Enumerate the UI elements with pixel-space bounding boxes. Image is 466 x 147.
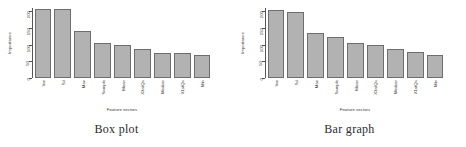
x-axis-tick-labels-left: VarSdMaxSampleMeanX3rdQuMedianX1stQuMin [33,79,212,105]
bar [114,45,131,79]
bar [194,55,211,78]
x-label-slot: Median [385,79,405,105]
x-axis-tick-label: Sample [100,80,105,95]
x-axis-tick-label: Sample [333,80,338,95]
bar-slot [33,8,53,78]
bar [407,52,424,78]
bar [154,53,171,78]
x-axis-tick-label: X3rdQu [373,80,378,95]
panel-caption-right: Bar graph [233,122,466,137]
bar [268,10,285,78]
panel-bar-graph: Importance 050100150200 VarSdMaxSampleMe… [233,0,466,147]
y-axis-tick-label: 100 [259,45,264,52]
bars-container-right [266,8,445,78]
bar-slot [266,8,286,78]
bar-slot [113,8,133,78]
x-axis-tick-label: Max [313,80,318,88]
bar [347,43,364,78]
y-axis-tick-label: 100 [26,45,31,52]
y-axis-title-left: Importance [7,32,12,54]
x-label-slot: Median [152,79,172,105]
y-axis-tick-label: 150 [26,28,31,35]
bar [174,53,191,78]
x-axis-tick-label: X1stQu [180,80,185,94]
x-axis-tick-label: X1stQu [413,80,418,94]
x-axis-tick-labels-right: VarSdMaxSampleMeanX3rdQuMedianX1stQuMin [266,79,445,105]
x-axis-title-right: Feature vectors [340,107,371,112]
x-axis-tick-label: Sd [60,80,65,85]
bar [307,33,324,78]
x-label-slot: Sample [93,79,113,105]
y-axis-tick-label: 0 [26,78,31,80]
x-axis-tick-label: Min [433,80,438,87]
bars-container-left [33,8,212,78]
x-label-slot: Max [73,79,93,105]
panel-caption-left: Box plot [0,122,233,137]
bar-slot [152,8,172,78]
x-label-slot: Mean [113,79,133,105]
x-label-slot: Sd [286,79,306,105]
x-axis-tick-label: Sd [293,80,298,85]
bar-slot [286,8,306,78]
bar [327,37,344,78]
y-axis-tick-label: 200 [259,11,264,18]
x-label-slot: Min [425,79,445,105]
x-label-slot: Sd [53,79,73,105]
x-axis-tick-label: Var [40,80,45,86]
bar-slot [73,8,93,78]
bar-slot [425,8,445,78]
x-axis-tick-label: Max [80,80,85,88]
bar-slot [132,8,152,78]
bar [427,55,444,78]
figure-two-bar-charts: Importance 050100150200 VarSdMaxSampleMe… [0,0,466,147]
x-axis-tick-label: Mean [353,80,358,91]
y-axis-tick-label: 200 [26,11,31,18]
bar-slot [326,8,346,78]
x-label-slot: X3rdQu [365,79,385,105]
x-axis-tick-label: Min [200,80,205,87]
bar-slot [405,8,425,78]
bar [287,12,304,78]
x-label-slot: X3rdQu [132,79,152,105]
x-label-slot: X1stQu [172,79,192,105]
x-axis-tick-label: Var [273,80,278,86]
y-axis-title-right: Importance [240,32,245,54]
y-axis-tick-label: 150 [259,28,264,35]
bar [74,31,91,78]
x-label-slot: Sample [326,79,346,105]
bar [35,9,52,78]
x-axis-tick-label: X3rdQu [140,80,145,95]
x-axis-title-left: Feature vectors [107,107,138,112]
bar-slot [192,8,212,78]
panel-box-plot: Importance 050100150200 VarSdMaxSampleMe… [0,0,233,147]
x-axis-tick-label: Median [160,80,165,94]
bar-slot [346,8,366,78]
x-axis-tick-label: Mean [120,80,125,91]
x-label-slot: Var [33,79,53,105]
x-label-slot: Max [306,79,326,105]
x-axis-tick-label: Median [393,80,398,94]
y-axis-tick-label: 0 [259,78,264,80]
y-axis-tick-label: 50 [26,61,31,66]
bar-slot [365,8,385,78]
bar [94,43,111,78]
x-label-slot: X1stQu [405,79,425,105]
bar [367,45,384,78]
bar [54,9,71,78]
bar-slot [172,8,192,78]
bar-slot [53,8,73,78]
bar-slot [306,8,326,78]
bar-slot [385,8,405,78]
x-label-slot: Var [266,79,286,105]
y-axis-tick-label: 50 [259,61,264,66]
bar [387,49,404,78]
x-label-slot: Mean [346,79,366,105]
bar-slot [93,8,113,78]
x-label-slot: Min [192,79,212,105]
bar [134,49,151,78]
